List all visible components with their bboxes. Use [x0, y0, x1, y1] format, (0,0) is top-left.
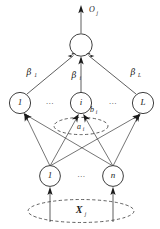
- input-vector-symbol: X: [75, 204, 83, 215]
- beta-middle-symbol: β: [71, 70, 77, 80]
- hidden-node-last-label: L: [139, 97, 145, 107]
- output-node: [70, 34, 92, 56]
- output-signal-arrow-group: [78, 5, 83, 33]
- hidden-layer-ellipsis-right: …: [109, 97, 118, 106]
- arrowhead-inputn-hiddeni: [83, 114, 90, 123]
- hidden-layer-group: 1 i L … …: [9, 92, 153, 113]
- hidden-bias-subscript: i: [96, 109, 98, 115]
- input-weight-ellipse-group: a i: [54, 117, 108, 134]
- beta-first-subscript: 1: [34, 72, 37, 78]
- beta-last-subscript: L: [137, 72, 141, 78]
- edge-inputn-hiddeni: [85, 117, 114, 167]
- hidden-bias-label-group: b i: [90, 105, 98, 115]
- input-node-last-label: n: [111, 170, 116, 180]
- edge-input1-hidden1: [26, 116, 51, 167]
- input-vector-ellipse-group: X j: [28, 200, 134, 223]
- edge-input1-hiddeni: [50, 117, 78, 167]
- output-signal-symbol: O: [89, 5, 95, 14]
- input-weight-symbol: a: [77, 122, 81, 131]
- output-signal-arrowhead: [78, 5, 83, 13]
- input-layer-ellipsis: …: [77, 170, 86, 179]
- input-node-first-label: 1: [48, 170, 53, 180]
- beta-last-symbol: β: [130, 67, 136, 77]
- input-vector-subscript: j: [84, 211, 87, 217]
- elm-network-diagram: β 1 β i β L 1 i L … … b i a i: [0, 0, 160, 229]
- input-weight-subscript: i: [83, 126, 85, 132]
- hidden-layer-ellipsis-left: …: [46, 97, 55, 106]
- edge-input1-hiddenL: [50, 116, 139, 167]
- beta-first-symbol: β: [26, 67, 32, 77]
- hidden-bias-symbol: b: [90, 105, 94, 114]
- edge-inputn-hidden1: [26, 115, 113, 166]
- input-weight-ellipse: [54, 117, 108, 134]
- beta-edge-last: [89, 56, 137, 95]
- diagram-canvas: β 1 β i β L 1 i L … … b i a i: [0, 0, 160, 229]
- input-hidden-edges-group: [24, 113, 141, 166]
- output-signal-label-group: O j: [89, 5, 98, 16]
- input-layer-group: 1 n …: [40, 166, 124, 187]
- output-signal-subscript: j: [95, 10, 98, 16]
- hidden-node-first-label: 1: [18, 97, 23, 107]
- beta-edges-group: [27, 53, 136, 94]
- beta-labels-group: β 1 β i β L: [26, 67, 141, 81]
